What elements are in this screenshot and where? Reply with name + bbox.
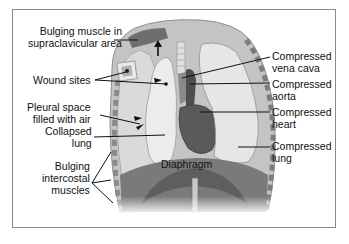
label-collapsed-lung: Collapsed lung [45,125,92,149]
label-wound-sites: Wound sites [33,74,91,86]
label-compressed-lung: Compressed lung [272,140,332,164]
label-compressed-heart: Compressed heart [272,106,332,130]
label-bulging-muscle: Bulging muscle in supraclavicular area [28,25,122,49]
label-compressed-vena-cava: Compressed vena cava [272,50,332,74]
label-compressed-aorta: Compressed aorta [272,78,332,102]
label-diaphragm: Diaphragm [161,158,212,170]
wound-site-dot [164,82,168,86]
label-bulging-intercostal: Bulging intercostal muscles [42,160,90,196]
trachea [177,42,185,74]
label-pleural-space: Pleural space filled with air [27,101,91,125]
wound-dressing [117,61,137,81]
